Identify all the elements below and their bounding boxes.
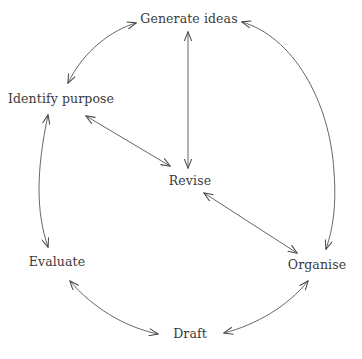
connector-organise-draft	[224, 281, 308, 333]
connector-generate-ideas-organise	[242, 22, 335, 249]
node-label-draft: Draft	[173, 328, 207, 341]
node-label-revise: Revise	[169, 175, 211, 188]
node-label-identify-purpose: Identify purpose	[8, 93, 114, 106]
node-label-generate-ideas: Generate ideas	[140, 13, 237, 26]
connector-revise-organise	[204, 193, 297, 253]
node-label-organise: Organise	[288, 259, 346, 272]
connector-evaluate-identify-purpose	[39, 115, 48, 247]
writing-process-cycle-diagram: Generate ideas Identify purpose Revise E…	[0, 0, 362, 359]
node-label-evaluate: Evaluate	[29, 256, 85, 269]
connector-identify-purpose-revise	[86, 116, 170, 166]
connector-draft-evaluate	[70, 281, 158, 334]
connector-identify-purpose-generate-ideas	[68, 23, 136, 83]
